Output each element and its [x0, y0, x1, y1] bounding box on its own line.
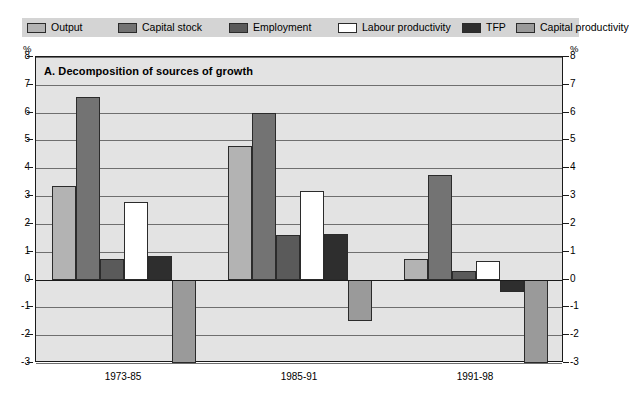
axis-tick-mark	[27, 139, 33, 140]
axis-tick-mark	[563, 362, 569, 363]
gridline	[36, 196, 562, 197]
axis-tick-mark	[563, 56, 569, 57]
legend-label: Capital productivity	[540, 22, 629, 33]
y-axis-tick-right: 7	[570, 79, 592, 89]
legend-label: TFP	[486, 22, 506, 33]
gridline	[36, 363, 562, 364]
chart-bar	[148, 256, 172, 280]
legend-swatch-icon	[118, 23, 137, 33]
axis-tick-mark	[563, 223, 569, 224]
chart-bar	[124, 202, 148, 280]
y-axis-tick-right: 5	[570, 134, 592, 144]
legend-swatch-icon	[27, 23, 46, 33]
y-axis-tick-right: 0	[570, 274, 592, 284]
axis-tick-mark	[563, 84, 569, 85]
chart-bar	[300, 191, 324, 280]
y-axis-tick-right: 4	[570, 162, 592, 172]
legend-item[interactable]: Labour productivity	[338, 22, 451, 33]
axis-tick-mark	[563, 167, 569, 168]
chart-bar	[428, 175, 452, 279]
gridline	[36, 335, 562, 336]
legend-item[interactable]: Employment	[229, 22, 311, 33]
axis-tick-mark	[27, 251, 33, 252]
chart-bar	[172, 280, 196, 363]
zero-line	[36, 280, 562, 281]
x-axis-tick-label: 1991-98	[387, 371, 563, 382]
plot-area: A. Decomposition of sources of growth	[35, 56, 563, 362]
y-axis-tick-right: -1	[570, 301, 592, 311]
chart-bar	[452, 271, 476, 279]
legend-item[interactable]: Capital productivity	[516, 22, 629, 33]
chart-bar	[500, 280, 524, 293]
gridline	[36, 57, 562, 58]
gridline	[36, 224, 562, 225]
gridline	[36, 168, 562, 169]
x-axis-tick-label: 1973-85	[35, 371, 211, 382]
legend-swatch-icon	[462, 23, 481, 33]
chart-bar	[228, 146, 252, 280]
axis-tick-mark	[27, 223, 33, 224]
legend-swatch-icon	[229, 23, 248, 33]
y-axis-tick-right: 3	[570, 190, 592, 200]
legend-label: Output	[51, 22, 83, 33]
y-axis-tick-right: 8	[570, 51, 592, 61]
legend-label: Labour productivity	[362, 22, 451, 33]
axis-tick-mark	[563, 334, 569, 335]
chart-bar	[348, 280, 372, 322]
axis-tick-mark	[563, 195, 569, 196]
chart-bar	[324, 234, 348, 280]
y-axis-tick-right: 1	[570, 246, 592, 256]
legend-label: Capital stock	[142, 22, 202, 33]
chart-bar	[76, 97, 100, 279]
axis-tick-mark	[27, 195, 33, 196]
axis-tick-mark	[27, 362, 33, 363]
legend-item[interactable]: Output	[27, 22, 83, 33]
legend-item[interactable]: TFP	[462, 22, 506, 33]
axis-tick-mark	[563, 306, 569, 307]
axis-tick-mark	[27, 306, 33, 307]
panel-title: A. Decomposition of sources of growth	[44, 65, 253, 77]
axis-tick-mark	[27, 334, 33, 335]
chart-bar	[100, 259, 124, 280]
y-axis-tick-right: 2	[570, 218, 592, 228]
axis-tick-mark	[27, 112, 33, 113]
axis-tick-mark	[563, 112, 569, 113]
axis-tick-mark	[563, 279, 569, 280]
chart-bar	[252, 113, 276, 280]
axis-tick-mark	[27, 56, 33, 57]
gridline	[36, 113, 562, 114]
axis-tick-mark	[563, 139, 569, 140]
gridline	[36, 140, 562, 141]
gridline	[36, 85, 562, 86]
y-axis-tick-right: -3	[570, 357, 592, 367]
chart-bar	[276, 235, 300, 280]
chart-bar	[476, 261, 500, 279]
chart-bar	[524, 280, 548, 363]
legend-swatch-icon	[338, 23, 357, 33]
axis-tick-mark	[563, 251, 569, 252]
y-axis-tick-right: -2	[570, 329, 592, 339]
legend-swatch-icon	[516, 23, 535, 33]
gridline	[36, 307, 562, 308]
axis-tick-mark	[27, 167, 33, 168]
chart-legend: OutputCapital stockEmploymentLabour prod…	[22, 18, 579, 37]
axis-tick-mark	[27, 84, 33, 85]
y-axis-tick-right: 6	[570, 107, 592, 117]
x-axis-tick-label: 1985-91	[211, 371, 387, 382]
legend-label: Employment	[253, 22, 311, 33]
legend-item[interactable]: Capital stock	[118, 22, 202, 33]
chart-bar	[404, 259, 428, 280]
axis-tick-mark	[27, 279, 33, 280]
chart-bar	[52, 186, 76, 279]
